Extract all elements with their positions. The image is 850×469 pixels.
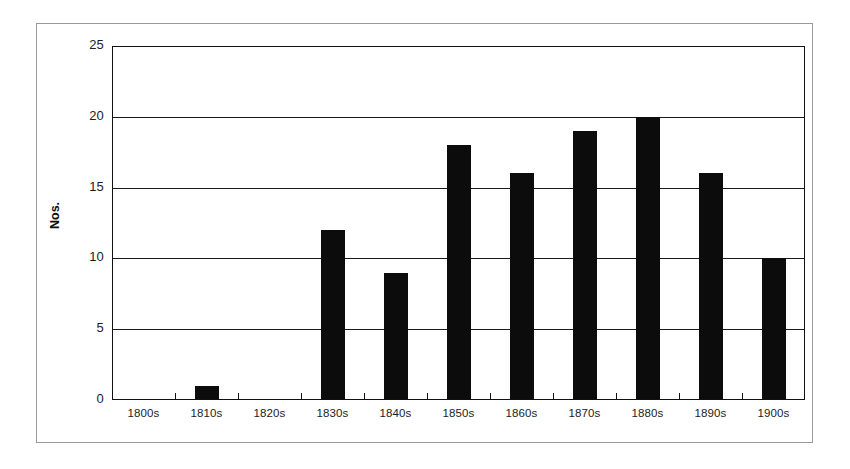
x-axis-tick-label: 1830s: [301, 407, 364, 419]
x-axis-tick-mark: [490, 393, 491, 400]
bar: [384, 273, 408, 400]
gridline: [112, 117, 805, 118]
x-axis-tick-mark: [616, 393, 617, 400]
bar: [321, 230, 345, 400]
y-axis-label: Nos.: [46, 211, 86, 229]
bar: [510, 173, 534, 400]
x-axis-tick-mark: [679, 393, 680, 400]
x-axis-tick-label: 1800s: [112, 407, 175, 419]
x-axis-tick-mark: [175, 393, 176, 400]
x-axis-tick-label: 1880s: [616, 407, 679, 419]
bar: [699, 173, 723, 400]
bar: [573, 131, 597, 400]
x-axis-tick-label: 1810s: [175, 407, 238, 419]
chart-figure: Nos. 2520151050 1800s1810s1820s1830s1840…: [0, 0, 850, 469]
y-axis-tick-label: 5: [0, 320, 104, 335]
bar: [195, 386, 219, 400]
x-axis-tick-label: 1850s: [427, 407, 490, 419]
x-axis-tick-mark: [364, 393, 365, 400]
x-axis-tick-label: 1840s: [364, 407, 427, 419]
x-axis-tick-mark: [301, 393, 302, 400]
x-axis-tick-mark: [553, 393, 554, 400]
y-axis-tick-label: 25: [0, 37, 104, 52]
bar: [447, 145, 471, 400]
x-axis-tick-mark: [238, 393, 239, 400]
bar: [762, 258, 786, 400]
x-axis-tick-mark: [427, 393, 428, 400]
bar: [636, 117, 660, 400]
y-axis-tick-label: 10: [0, 249, 104, 264]
plot-area: [112, 46, 805, 400]
x-axis-tick-label: 1820s: [238, 407, 301, 419]
x-axis-tick-label: 1890s: [679, 407, 742, 419]
y-axis-tick-label: 15: [0, 179, 104, 194]
x-axis-tick-label: 1900s: [742, 407, 805, 419]
x-axis-tick-label: 1860s: [490, 407, 553, 419]
y-axis-tick-label: 20: [0, 108, 104, 123]
x-axis-tick-label: 1870s: [553, 407, 616, 419]
y-axis-tick-label: 0: [0, 391, 104, 406]
x-axis-tick-mark: [742, 393, 743, 400]
